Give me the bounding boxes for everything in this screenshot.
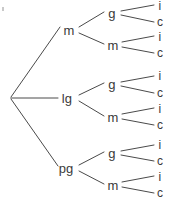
tree-edge bbox=[121, 5, 154, 11]
tree-edge bbox=[122, 187, 154, 193]
tree-leaf-l-1: i bbox=[159, 0, 162, 12]
tree-edge bbox=[121, 15, 154, 22]
tree-edge bbox=[121, 145, 154, 151]
tree-edge bbox=[122, 176, 154, 182]
tree-leaf-l-12: c bbox=[157, 187, 163, 199]
tree-leaf-l-8: c bbox=[157, 119, 163, 131]
tree-edge bbox=[122, 36, 154, 42]
tree-edge bbox=[11, 99, 58, 166]
tree-node-n-lg: lg bbox=[62, 92, 72, 105]
tree-leaf-l-10: c bbox=[157, 155, 163, 167]
tree-leaf-l-3: i bbox=[159, 31, 162, 43]
tree-leaf-l-5: i bbox=[159, 70, 162, 82]
tree-leaf-l-4: c bbox=[157, 47, 163, 59]
tree-edge bbox=[79, 101, 104, 116]
tree-edge bbox=[79, 171, 104, 184]
tree-leaf-l-11: i bbox=[159, 171, 162, 183]
tree-edges-layer bbox=[0, 0, 173, 201]
tree-edge bbox=[79, 152, 104, 165]
tree-edge bbox=[122, 119, 154, 125]
tree-node-n-lg-g: g bbox=[108, 78, 115, 91]
tree-edge bbox=[122, 47, 154, 53]
tree-leaf-l-7: i bbox=[159, 103, 162, 115]
tree-edge bbox=[121, 86, 154, 93]
tree-leaf-l-9: i bbox=[159, 139, 162, 151]
tree-node-n-lg-m: m bbox=[108, 111, 119, 124]
tree-leaf-l-2: c bbox=[157, 16, 163, 28]
tree-edge bbox=[79, 33, 104, 44]
scan-artifact-speck bbox=[2, 7, 4, 11]
tree-edge bbox=[79, 12, 104, 27]
tree-node-n-m-m: m bbox=[108, 39, 119, 52]
tree-node-n-m: m bbox=[64, 24, 75, 37]
tree-node-n-pg-g: g bbox=[108, 147, 115, 160]
tree-edge bbox=[121, 155, 154, 161]
tree-leaf-l-6: c bbox=[157, 87, 163, 99]
tree-edge bbox=[79, 83, 104, 95]
tree-edge bbox=[122, 108, 154, 114]
tree-node-n-pg: pg bbox=[59, 162, 74, 175]
tree-edge bbox=[11, 27, 60, 97]
tree-edge bbox=[121, 76, 154, 82]
tree-node-n-m-g: g bbox=[108, 7, 115, 20]
edge-group bbox=[11, 5, 154, 193]
tree-diagram: mlgpggmgmgmicicicicicic bbox=[0, 0, 173, 201]
tree-node-n-pg-m: m bbox=[108, 179, 119, 192]
